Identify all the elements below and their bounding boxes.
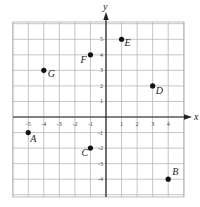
y-tick-label: 4 <box>100 52 103 58</box>
point-label: E <box>124 37 131 48</box>
grid-border <box>13 22 184 197</box>
y-tick-label: -3 <box>98 161 103 167</box>
y-tick-label: 3 <box>100 67 103 73</box>
point-a: A <box>26 130 38 144</box>
coordinate-plane: x y -5-4-3-2-1123454321-1-2-3-4 ABCDEFG <box>0 0 200 207</box>
point-label: F <box>79 54 87 65</box>
y-tick-label: 1 <box>100 98 103 104</box>
point-marker <box>41 68 46 73</box>
point-marker <box>150 83 155 88</box>
axes: x y <box>13 1 199 197</box>
x-tick-label: -4 <box>41 121 46 127</box>
y-axis-label: y <box>102 1 108 12</box>
point-label: C <box>81 147 88 158</box>
point-label: D <box>155 85 164 96</box>
x-axis-label: x <box>193 111 199 122</box>
grid <box>13 22 184 197</box>
point-d: D <box>150 83 164 96</box>
point-label: A <box>29 133 37 144</box>
point-label: B <box>172 166 178 177</box>
y-tick-label: 5 <box>100 36 103 42</box>
x-tick-label: -5 <box>26 121 31 127</box>
x-tick-label: 2 <box>136 121 139 127</box>
y-tick-label: 2 <box>100 83 103 89</box>
point-marker <box>88 52 93 57</box>
x-tick-label: -1 <box>88 121 93 127</box>
point-marker <box>88 146 93 151</box>
x-tick-label: -2 <box>72 121 77 127</box>
point-label: G <box>48 68 55 79</box>
x-axis-arrow-icon <box>184 114 192 119</box>
point-f: F <box>79 52 93 65</box>
point-c: C <box>81 146 93 159</box>
x-tick-label: 4 <box>167 121 170 127</box>
point-g: G <box>41 68 55 80</box>
point-e: E <box>119 37 131 49</box>
y-tick-label: -4 <box>98 176 103 182</box>
y-tick-label: -2 <box>98 145 103 151</box>
x-tick-label: 3 <box>151 121 154 127</box>
point-marker <box>166 177 171 182</box>
tick-labels: -5-4-3-2-1123454321-1-2-3-4 <box>26 36 170 182</box>
point-marker <box>119 37 124 42</box>
x-tick-label: 1 <box>120 121 123 127</box>
y-tick-label: -1 <box>98 130 103 136</box>
y-axis-arrow-icon <box>103 12 108 20</box>
x-tick-label: -3 <box>57 121 62 127</box>
